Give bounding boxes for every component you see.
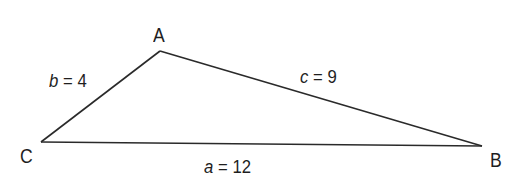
vertex-label-c: C xyxy=(20,146,33,166)
vertex-label-a: A xyxy=(153,25,165,45)
side-c-equals: = xyxy=(313,66,323,87)
side-a-line xyxy=(41,142,482,146)
side-a-label: a = 12 xyxy=(204,157,251,176)
vertex-label-b: B xyxy=(490,150,502,170)
side-b-label: b = 4 xyxy=(49,71,87,90)
side-b-line xyxy=(41,51,160,142)
side-c-label: c = 9 xyxy=(300,67,337,86)
side-a-variable: a xyxy=(204,156,213,177)
side-c-value: 9 xyxy=(327,66,336,87)
triangle-diagram: A C B b = 4 c = 9 a = 12 xyxy=(0,0,529,180)
side-c-variable: c xyxy=(300,66,308,87)
side-a-value: 12 xyxy=(232,156,251,177)
side-b-equals: = xyxy=(63,70,73,91)
side-b-value: 4 xyxy=(77,70,86,91)
side-a-equals: = xyxy=(218,156,228,177)
side-b-variable: b xyxy=(49,70,58,91)
